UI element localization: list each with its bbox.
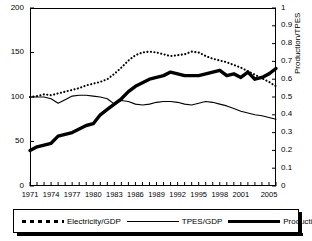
legend-shadow-bottom xyxy=(17,233,303,236)
legend-swatch-thin-icon xyxy=(127,221,179,222)
y-axis-left-tick-label: 200 xyxy=(0,4,24,12)
x-axis-tick-label: 2005 xyxy=(256,191,282,199)
legend-label: TPES/GDP xyxy=(182,217,222,226)
y-axis-right-tick-label: 0.6 xyxy=(281,75,305,83)
y-axis-right-tick-label: 0.5 xyxy=(281,93,305,101)
y-axis-right-tick-label: 0.2 xyxy=(281,146,305,154)
legend-item-electricity-gdp[interactable]: Electricity/GDP xyxy=(14,210,121,232)
y-axis-left-tick-label: 100 xyxy=(0,93,24,101)
legend-item-tpes-gdp[interactable]: TPES/GDP xyxy=(121,210,222,232)
y-axis-right-tick-label: 0.1 xyxy=(281,164,305,172)
chart-legend: Electricity/GDPTPES/GDPProduction/TPES xyxy=(13,209,299,233)
y-axis-right-tick-label: 1 xyxy=(281,4,305,12)
y-axis-left-tick-label: 0 xyxy=(0,182,24,190)
series-line-production-tpes xyxy=(30,69,276,151)
legend-label: Electricity/GDP xyxy=(67,217,121,226)
y-axis-right-tick-label: 0.3 xyxy=(281,128,305,136)
y-axis-right-tick-label: 0 xyxy=(281,182,305,190)
x-axis-tick-label: 2001 xyxy=(228,191,254,199)
y-axis-right-tick-label: 0.4 xyxy=(281,110,305,118)
legend-label: Production/TPES xyxy=(283,217,312,226)
legend-item-production-tpes[interactable]: Production/TPES xyxy=(222,210,312,232)
series-line-electricity-gdp xyxy=(30,52,276,97)
y-axis-right-title: Production/TPES xyxy=(293,13,302,74)
series-line-tpes-gdp xyxy=(30,95,276,119)
y-axis-left-tick-label: 150 xyxy=(0,48,24,56)
legend-swatch-dotted-icon xyxy=(20,220,64,223)
chart-canvas xyxy=(0,0,312,241)
legend-swatch-thick-icon xyxy=(228,220,280,223)
chart-container: 050100150200 00.10.20.30.40.50.60.70.80.… xyxy=(0,0,312,241)
y-axis-left-tick-label: 50 xyxy=(0,137,24,145)
